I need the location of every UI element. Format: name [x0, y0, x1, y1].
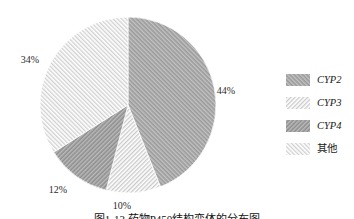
legend-row-cyp2: CYP2 — [286, 74, 342, 86]
legend: CYP2 CYP3 CYP4 其他 — [286, 74, 342, 166]
legend-row-cyp3: CYP3 — [286, 97, 342, 109]
legend-swatch-cyp4-icon — [286, 120, 310, 132]
legend-row-other: 其他 — [286, 143, 342, 155]
legend-swatch-cyp3-icon — [286, 97, 310, 109]
slice-percent-label-CYP4: 12% — [49, 184, 67, 195]
legend-row-cyp4: CYP4 — [286, 120, 342, 132]
legend-swatch-cyp2-icon — [286, 74, 310, 86]
figure-caption: 图1-13 药物P450结构变体的分布图 — [0, 210, 354, 219]
pie-chart: 44%10%12%34% — [0, 0, 262, 219]
figure-root: 44%10%12%34% CYP2 CYP3 CYP4 其他 图1-13 药物P… — [0, 0, 354, 219]
slice-percent-label-其他: 34% — [21, 54, 39, 65]
legend-label-cyp4: CYP4 — [317, 120, 342, 132]
legend-label-other: 其他 — [317, 143, 337, 155]
slice-percent-label-CYP2: 44% — [217, 85, 235, 96]
legend-label-cyp3: CYP3 — [317, 97, 342, 109]
legend-swatch-other-icon — [286, 143, 310, 155]
legend-label-cyp2: CYP2 — [317, 74, 342, 86]
